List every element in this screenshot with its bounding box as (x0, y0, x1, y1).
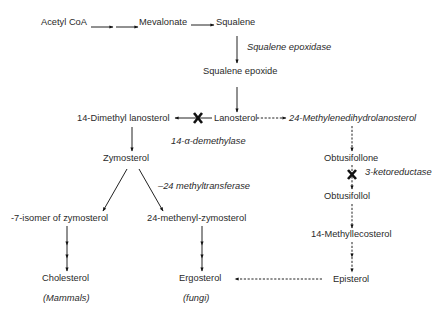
node-obtusifollol: Obtusifollol (324, 191, 370, 201)
label-mammals: (Mammals) (43, 293, 89, 303)
node-episterol: Episterol (333, 274, 369, 284)
node-acetyl-coa: Acetyl CoA (41, 17, 88, 27)
node-methyllecosterol: 14-Methyllecosterol (311, 229, 392, 239)
node-cholesterol: Cholesterol (42, 273, 89, 283)
node-ergosterol: Ergosterol (179, 273, 221, 283)
node-isomer-zymosterol: -7-isomer of zymosterol (11, 213, 108, 223)
enzyme-demethylase: 14-α-demethylase (171, 136, 246, 146)
edge-zymosterol-isomer (103, 169, 127, 211)
node-squalene: Squalene (216, 17, 255, 27)
node-methylenedihydrolanosterol: 24-Methylenedihydrolanosterol (288, 113, 417, 123)
enzyme-methyltransferase: –24 methyltransferase (157, 181, 250, 191)
label-fungi: (fungi) (183, 293, 209, 303)
enzyme-ketoreductase: 3-ketoreductase (365, 167, 432, 177)
pathway-svg: Acetyl CoA Mevalonate Squalene Squalene … (0, 0, 441, 314)
node-zymosterol: Zymosterol (103, 153, 149, 163)
sterol-pathway-diagram: Acetyl CoA Mevalonate Squalene Squalene … (0, 0, 441, 314)
enzyme-squalene-epoxidase: Squalene epoxidase (247, 42, 331, 52)
node-mevalonate: Mevalonate (139, 17, 187, 27)
node-methenyl-zymosterol: 24-methenyl-zymosterol (147, 213, 246, 223)
node-lanosterol: Lanosterol (214, 113, 257, 123)
node-squalene-epoxide: Squalene epoxide (203, 66, 277, 76)
node-obtusifollone: Obtusifollone (324, 153, 378, 163)
node-dimethyl-lanosterol: 14-Dimethyl lanosterol (77, 113, 170, 123)
